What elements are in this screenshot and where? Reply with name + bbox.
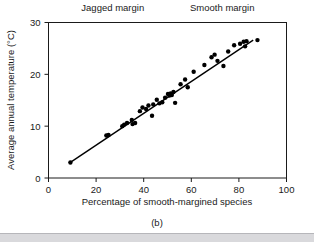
data-point — [138, 109, 142, 113]
data-point — [178, 82, 182, 86]
x-axis-tick-labels: 020406080100 — [46, 184, 295, 195]
data-point — [150, 114, 154, 118]
x-tick-label: 0 — [46, 184, 51, 195]
data-point — [125, 121, 129, 125]
margin-annotation-label: Smooth margin — [190, 2, 254, 13]
x-tick-label: 40 — [138, 184, 149, 195]
y-tick-label: 0 — [35, 173, 40, 184]
plot-frame — [49, 23, 287, 179]
x-tick-label: 80 — [234, 184, 245, 195]
x-axis-ticks — [49, 178, 287, 182]
x-axis-title: Percentage of smooth-margined species — [82, 196, 253, 207]
data-point — [133, 121, 137, 125]
y-tick-label: 10 — [30, 121, 41, 132]
data-point — [221, 64, 225, 68]
data-point — [212, 52, 216, 56]
data-point — [171, 90, 175, 94]
y-axis-tick-labels: 0102030 — [30, 17, 41, 184]
data-point — [232, 43, 236, 47]
data-point — [106, 133, 110, 137]
margin-annotations: Jagged marginSmooth margin — [81, 2, 254, 13]
data-point — [215, 59, 219, 63]
data-point — [191, 70, 195, 74]
y-tick-label: 20 — [30, 69, 41, 80]
data-point — [146, 103, 150, 107]
data-point — [68, 160, 72, 164]
data-point — [160, 100, 164, 104]
data-point — [183, 77, 187, 81]
margin-annotation-label: Jagged margin — [81, 2, 144, 13]
y-tick-label: 30 — [30, 17, 41, 28]
bottom-gray-band — [0, 233, 314, 242]
data-point — [202, 63, 206, 67]
figure-caption: (b) — [151, 217, 163, 228]
data-point — [151, 102, 155, 106]
data-points — [68, 38, 259, 165]
y-axis-title: Average annual temperature (°C) — [5, 30, 16, 170]
x-tick-label: 20 — [91, 184, 102, 195]
data-point — [130, 118, 134, 122]
y-axis-ticks — [45, 23, 49, 179]
data-point — [244, 39, 248, 43]
data-point — [255, 38, 259, 42]
x-tick-label: 100 — [279, 184, 295, 195]
data-point — [173, 101, 177, 105]
data-point — [155, 98, 159, 102]
data-point — [226, 49, 230, 53]
data-point — [186, 85, 190, 89]
data-point — [243, 44, 247, 48]
x-tick-label: 60 — [186, 184, 197, 195]
data-point — [163, 95, 167, 99]
data-point — [144, 107, 148, 111]
